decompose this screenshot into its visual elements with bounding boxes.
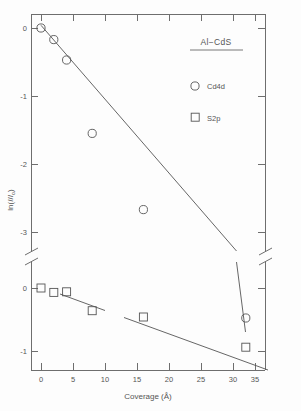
y-axis-label-prefix: ln( [6,201,15,210]
x-tick-label: 10 [101,375,109,384]
y-axis-ticks-lower [31,288,265,351]
y-axis-ticks-upper [31,28,265,232]
legend: Al−CdS Cd4d S2p [190,37,243,123]
x-tick-label: 25 [197,375,205,384]
square-marker-icon [191,113,199,121]
data-point [242,343,250,351]
y-axis-tick-labels-lower: 0 -1 [20,284,27,356]
figure-panel: 0 5 10 15 20 25 30 35 Coverage (Å) 0 -1 … [0,0,301,411]
x-tick-label: 15 [133,375,141,384]
x-tick-label: 0 [39,375,43,384]
x-axis-ticks-top [41,14,255,21]
series-cd4d-fit-line [41,25,246,332]
x-tick-label: 35 [251,375,259,384]
data-point [63,56,71,64]
circle-marker-icon [191,82,199,90]
legend-entry-cd4d[interactable]: Cd4d [191,82,225,91]
y-tick-label: -3 [20,228,27,237]
data-point [139,206,147,214]
plot-frame [31,14,265,370]
x-axis-label: Coverage (Å) [124,392,172,401]
data-point [242,314,250,322]
data-point [139,313,147,321]
x-tick-label: 20 [165,375,173,384]
data-point [88,307,96,315]
series-s2p-fit-line [60,294,268,370]
data-point [50,288,58,296]
y-tick-label: 0 [23,24,27,33]
chart-canvas: 0 5 10 15 20 25 30 35 Coverage (Å) 0 -1 … [0,0,301,411]
data-point [37,284,45,292]
x-tick-label: 30 [229,375,237,384]
x-axis-ticks [41,363,255,370]
legend-entry-s2p[interactable]: S2p [191,113,220,123]
legend-label: Cd4d [207,82,225,91]
y-tick-label: -1 [20,92,27,101]
y-axis-tick-labels-upper: 0 -1 -2 -3 [20,24,27,237]
series-cd4d-markers [37,24,250,322]
svg-text:ln(I/Io): ln(I/Io) [6,189,16,211]
y-tick-label: 0 [23,284,27,293]
y-tick-label: -2 [20,160,27,169]
y-axis-label: ln(I/Io) [6,189,16,211]
legend-label: S2p [207,114,220,123]
y-axis-label-suffix: ) [6,189,15,192]
series-s2p-markers [37,284,250,351]
legend-title: Al−CdS [201,37,232,47]
y-tick-label: -1 [20,347,27,356]
data-point [88,129,96,137]
x-axis-tick-labels: 0 5 10 15 20 25 30 35 [39,375,259,384]
data-point [63,288,71,296]
x-tick-label: 5 [71,375,75,384]
